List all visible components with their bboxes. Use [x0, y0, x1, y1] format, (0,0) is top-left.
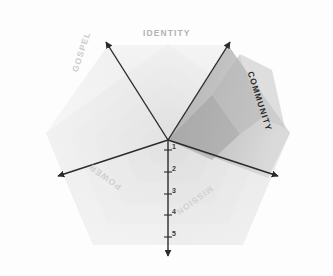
scale-tick-label-1: 1 [172, 143, 176, 150]
scale-tick-label-5: 5 [172, 230, 176, 237]
radar-chart-canvas [0, 0, 333, 276]
axis-label-identity: IDENTITY [143, 28, 191, 38]
scale-tick-label-4: 4 [172, 208, 176, 215]
scale-tick-label-2: 2 [172, 165, 176, 172]
scale-tick-label-3: 3 [172, 187, 176, 194]
radar-chart: IDENTITY COMMUNITY GOSPEL MISSION POWER … [0, 0, 333, 276]
